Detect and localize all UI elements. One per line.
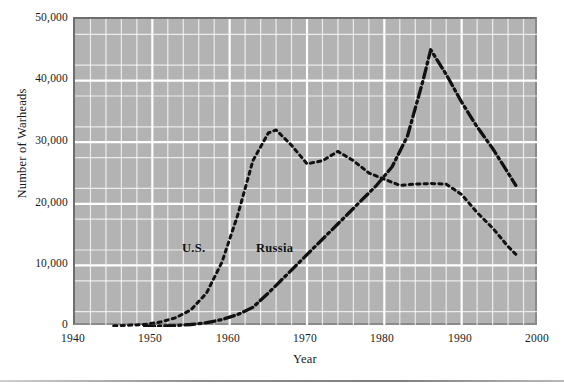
y-tick-50000: 50,000 (2, 12, 68, 24)
series-line-us (114, 130, 516, 326)
y-tick-30000: 30,000 (2, 135, 68, 147)
x-tick-1970: 1970 (275, 332, 335, 344)
x-tick-1950: 1950 (120, 332, 180, 344)
y-axis-tick-labels: 50,000 40,000 30,000 20,000 10,000 0 (0, 0, 68, 387)
series-curves (75, 19, 539, 327)
series-label-us: U.S. (182, 241, 205, 256)
plot-area (73, 17, 537, 325)
x-tick-1980: 1980 (352, 332, 412, 344)
y-tick-40000: 40,000 (2, 73, 68, 85)
x-tick-1960: 1960 (198, 332, 258, 344)
page-bottom-rule (0, 380, 564, 382)
x-axis-title: Year (275, 352, 335, 367)
y-axis-title: Number of Warheads (15, 54, 30, 234)
y-tick-20000: 20,000 (2, 197, 68, 209)
nuclear-warheads-chart-figure: 50,000 40,000 30,000 20,000 10,000 0 Num… (0, 0, 564, 387)
series-label-russia: Russia (256, 241, 293, 256)
x-tick-1940: 1940 (43, 332, 103, 344)
x-tick-2000: 2000 (507, 332, 564, 344)
series-line-russia (145, 50, 516, 327)
x-tick-1990: 1990 (430, 332, 490, 344)
y-tick-10000: 10,000 (2, 258, 68, 270)
y-tick-0: 0 (2, 319, 68, 331)
